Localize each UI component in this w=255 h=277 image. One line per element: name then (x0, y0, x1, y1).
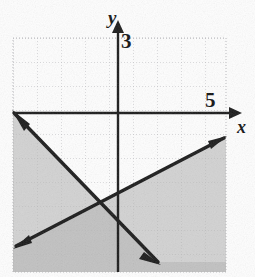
x-axis-tick-label: 5 (205, 90, 216, 111)
y-axis-label: y (108, 8, 116, 27)
graph-figure: y x 3 5 (0, 0, 255, 277)
x-axis-label: x (237, 118, 246, 136)
y-axis-tick-label: 3 (121, 31, 132, 52)
